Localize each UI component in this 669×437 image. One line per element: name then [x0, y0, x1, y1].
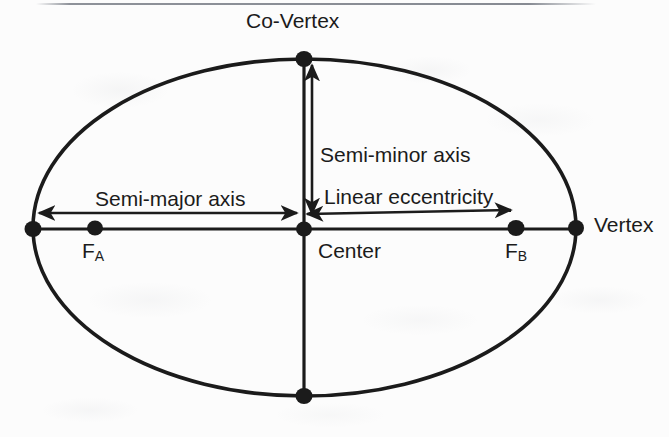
point-dot-focus-a — [87, 221, 103, 236]
label-semi-minor-axis: Semi-minor axis — [320, 144, 471, 165]
point-dot-bottom-co-vertex — [296, 388, 313, 404]
label-focus-b-subscript: B — [518, 248, 527, 264]
point-dot-top-co-vertex — [296, 51, 313, 67]
point-dot-focus-b — [508, 220, 525, 236]
label-focus-b-letter: F — [505, 239, 518, 262]
label-semi-major-axis: Semi-major axis — [95, 188, 246, 209]
ellipse-diagram-figure: Co-Vertex Semi-minor axis Semi-major axi… — [0, 0, 669, 437]
label-vertex: Vertex — [594, 214, 654, 235]
point-dot-left-vertex — [25, 221, 42, 237]
linear-eccentricity-arrow — [307, 210, 511, 214]
label-center: Center — [318, 240, 381, 261]
label-focus-a-subscript: A — [95, 248, 104, 264]
label-focus-a-letter: F — [82, 239, 95, 262]
label-linear-eccentricity: Linear eccentricity — [324, 186, 493, 207]
point-dot-right-vertex — [568, 220, 584, 236]
ellipse-geometry-svg — [0, 0, 669, 437]
label-co-vertex: Co-Vertex — [246, 10, 339, 31]
label-focus-a: FA — [82, 240, 104, 261]
point-dot-center — [296, 222, 312, 237]
label-focus-b: FB — [505, 240, 527, 261]
